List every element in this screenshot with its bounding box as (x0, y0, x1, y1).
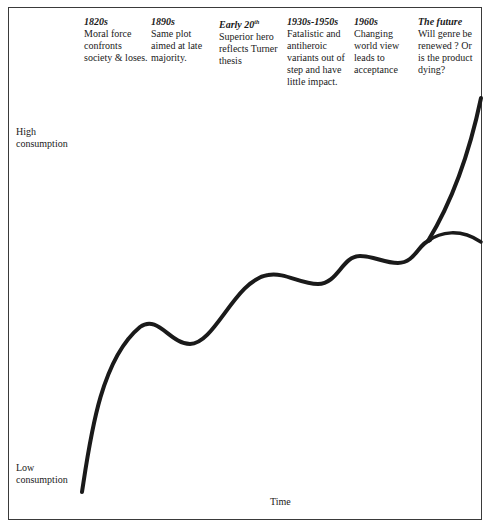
renewal-branch-line (428, 98, 481, 241)
consumption-curve (0, 0, 488, 526)
main-curve-line (82, 240, 430, 492)
decline-branch-line (428, 233, 481, 242)
